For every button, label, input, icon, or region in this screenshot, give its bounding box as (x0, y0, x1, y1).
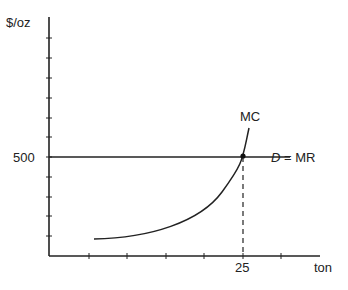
demand-mr-label: D = MR (271, 150, 315, 165)
y-axis-label: $/oz (6, 15, 31, 30)
equilibrium-point (240, 153, 245, 158)
mc-label: MC (240, 109, 260, 124)
price-tick-label: 500 (13, 150, 35, 165)
quantity-tick-label: 25 (235, 260, 249, 275)
chart: $/oz ton 500 25 MC D = MR (0, 0, 348, 290)
demand-d-italic: D (271, 150, 280, 165)
demand-mr-rest: = MR (280, 150, 315, 165)
mc-curve (94, 128, 249, 239)
x-axis-label: ton (314, 260, 332, 275)
